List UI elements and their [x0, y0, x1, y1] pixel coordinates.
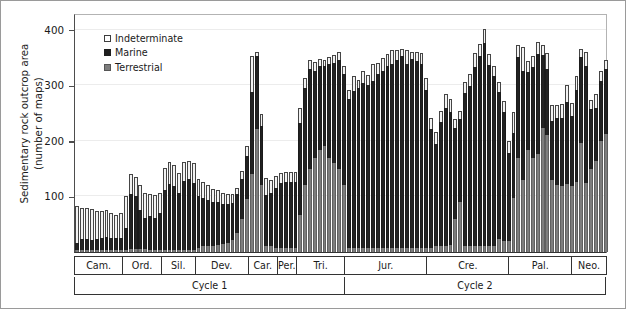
bar [483, 29, 487, 252]
bar-segment-marine [313, 71, 317, 158]
bar-segment-marine [240, 179, 244, 219]
bar [318, 59, 322, 252]
bar-segment-marine [526, 72, 530, 150]
bar-segment-terrestrial [342, 185, 346, 252]
bar [264, 178, 268, 252]
period-label: Sil. [171, 260, 185, 271]
bar-segment-terrestrial [449, 245, 453, 252]
bar [390, 50, 394, 252]
bar-segment-marine [492, 76, 496, 246]
bar [201, 182, 205, 252]
bar-segment-terrestrial [129, 249, 133, 252]
bar [439, 111, 443, 252]
bar-segment-indeterminate [95, 211, 99, 239]
bar-segment-terrestrial [478, 246, 482, 252]
bar [357, 80, 361, 252]
bar [206, 185, 210, 252]
bar [604, 60, 608, 252]
bar-segment-indeterminate [138, 185, 142, 211]
bar-segment-terrestrial [197, 248, 201, 252]
bar [594, 94, 598, 252]
bar-segment-marine [95, 239, 99, 250]
bar-segment-indeterminate [352, 76, 356, 90]
bar [565, 85, 569, 252]
period-label: Pal. [532, 260, 549, 271]
bar [231, 194, 235, 252]
bar [221, 193, 225, 252]
bar-segment-indeterminate [507, 141, 511, 153]
bar-segment-terrestrial [240, 219, 244, 252]
bar-segment-indeterminate [323, 60, 327, 67]
bar [177, 173, 181, 252]
bar-segment-indeterminate [410, 52, 414, 59]
bar-segment-terrestrial [245, 199, 249, 252]
bar [381, 58, 385, 253]
bar-segment-terrestrial [264, 246, 268, 252]
bar-segment-indeterminate [80, 208, 84, 239]
bar-segment-indeterminate [550, 105, 554, 121]
bar-segment-indeterminate [129, 174, 133, 194]
bar-segment-terrestrial [298, 215, 302, 252]
bar [487, 54, 491, 252]
legend-item-indeterminate: Indeterminate [104, 31, 183, 46]
bar-segment-indeterminate [332, 55, 336, 63]
bar-segment-terrestrial [153, 250, 157, 252]
bar-segment-marine [80, 239, 84, 250]
bar-segment-indeterminate [599, 71, 603, 81]
bar [250, 56, 254, 252]
bar-segment-marine [468, 86, 472, 246]
bar [405, 50, 409, 252]
bar-segment-indeterminate [90, 209, 94, 240]
bar-segment-marine [182, 181, 186, 250]
period-cell-car: Car. [249, 257, 278, 274]
bar-segment-marine [187, 179, 191, 250]
bar-segment-marine [90, 240, 94, 250]
bar [240, 171, 244, 252]
bar [294, 172, 298, 252]
bar-segment-indeterminate [177, 173, 181, 193]
bar-segment-indeterminate [298, 108, 302, 124]
bar-segment-terrestrial [138, 249, 142, 252]
bar-segment-terrestrial [250, 174, 254, 252]
bar-segment-marine [381, 71, 385, 248]
bar [114, 215, 118, 252]
bar-segment-terrestrial [599, 141, 603, 252]
bar [400, 49, 404, 252]
bar-segment-marine [463, 93, 467, 246]
bar [298, 108, 302, 252]
bar-segment-marine [512, 133, 516, 197]
bar-segment-terrestrial [357, 248, 361, 252]
bar [342, 66, 346, 252]
bar-segment-indeterminate [182, 162, 186, 181]
period-label: Cre. [458, 260, 477, 271]
bar-segment-marine [589, 109, 593, 169]
bar-segment-marine [201, 198, 205, 247]
bar-segment-terrestrial [274, 248, 278, 252]
bar-segment-marine [231, 203, 235, 240]
bar-segment-terrestrial [323, 146, 327, 252]
bar [168, 162, 172, 252]
bar [163, 168, 167, 252]
bar-segment-marine [143, 218, 147, 249]
bar-segment-marine [158, 213, 162, 250]
bar-segment-terrestrial [168, 250, 172, 252]
bar [158, 193, 162, 252]
bar-segment-indeterminate [327, 57, 331, 64]
bar-segment-terrestrial [502, 241, 506, 252]
y-axis-title-line1: Sedimentary rock outcrop area [18, 44, 30, 204]
bar-segment-indeterminate [575, 76, 579, 89]
bar-segment-marine [192, 183, 196, 250]
bar [395, 50, 399, 252]
bar-segment-indeterminate [458, 111, 462, 119]
period-cell-pal: Pal. [509, 257, 572, 274]
bar [560, 104, 564, 252]
bar-segment-terrestrial [294, 248, 298, 252]
bar-segment-marine [395, 60, 399, 248]
bar-segment-terrestrial [289, 248, 293, 252]
bar-segment-terrestrial [134, 249, 138, 252]
bar-segment-indeterminate [555, 105, 559, 117]
period-label: Car. [253, 260, 272, 271]
bar [134, 177, 138, 252]
bar-segment-indeterminate [308, 60, 312, 69]
bar-segment-terrestrial [279, 248, 283, 252]
